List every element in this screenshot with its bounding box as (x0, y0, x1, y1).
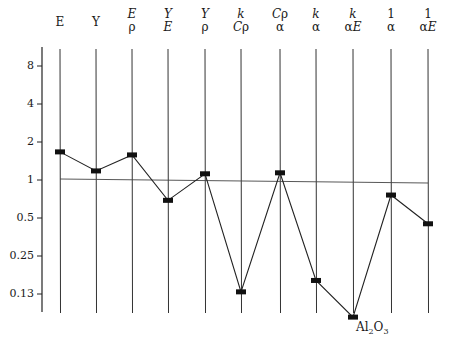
column-header: kα (296, 8, 336, 34)
y-tick-label: 0.13 (4, 288, 34, 300)
y-tick-label: 0.5 (4, 212, 34, 224)
header-denominator: E (148, 21, 188, 34)
header-denominator: α (371, 21, 411, 34)
data-marker (236, 289, 246, 294)
data-marker (91, 168, 101, 173)
header-numerator: E (40, 16, 80, 29)
data-marker (311, 278, 321, 283)
header-denominator: αE (333, 21, 373, 34)
data-marker (423, 221, 433, 226)
column-header: YE (148, 8, 188, 34)
category-line (96, 49, 97, 313)
y-axis (37, 47, 42, 312)
data-marker (55, 149, 65, 154)
column-header: 1α (371, 8, 411, 34)
data-marker (275, 170, 285, 175)
column-header: Y (76, 16, 116, 29)
column-header: Eρ (112, 8, 152, 34)
header-denominator: ρ (112, 21, 152, 34)
category-line (391, 49, 392, 313)
annotation-al2o3: Al2O3 (356, 320, 389, 336)
category-line (428, 49, 429, 313)
reference-line-one (60, 179, 428, 183)
column-header: kαE (333, 8, 373, 34)
column-header: E (40, 16, 80, 29)
y-tick-label: 2 (4, 136, 34, 148)
category-line (60, 49, 61, 313)
header-denominator: αE (408, 21, 448, 34)
reference-line (60, 179, 428, 183)
y-tick-label: 0.25 (4, 250, 34, 262)
column-header: Yρ (185, 8, 225, 34)
column-header: Cρα (260, 8, 300, 34)
data-marker (163, 198, 173, 203)
header-denominator: Cρ (221, 21, 261, 34)
column-header: kCρ (221, 8, 261, 34)
header-denominator: α (260, 21, 300, 34)
data-marker (348, 315, 358, 320)
data-marker (127, 152, 137, 157)
column-header: 1αE (408, 8, 448, 34)
data-series-al2o3 (55, 149, 433, 319)
header-denominator: α (296, 21, 336, 34)
y-tick-label: 8 (4, 60, 34, 72)
y-tick-label: 1 (4, 174, 34, 186)
y-tick-label: 4 (4, 98, 34, 110)
category-line (132, 49, 133, 313)
category-line (316, 49, 317, 313)
header-denominator: ρ (185, 21, 225, 34)
chart-canvas (0, 0, 449, 344)
category-line (168, 49, 169, 313)
data-marker (200, 171, 210, 176)
header-numerator: Y (76, 16, 116, 29)
data-marker (386, 193, 396, 198)
category-line (353, 49, 354, 313)
